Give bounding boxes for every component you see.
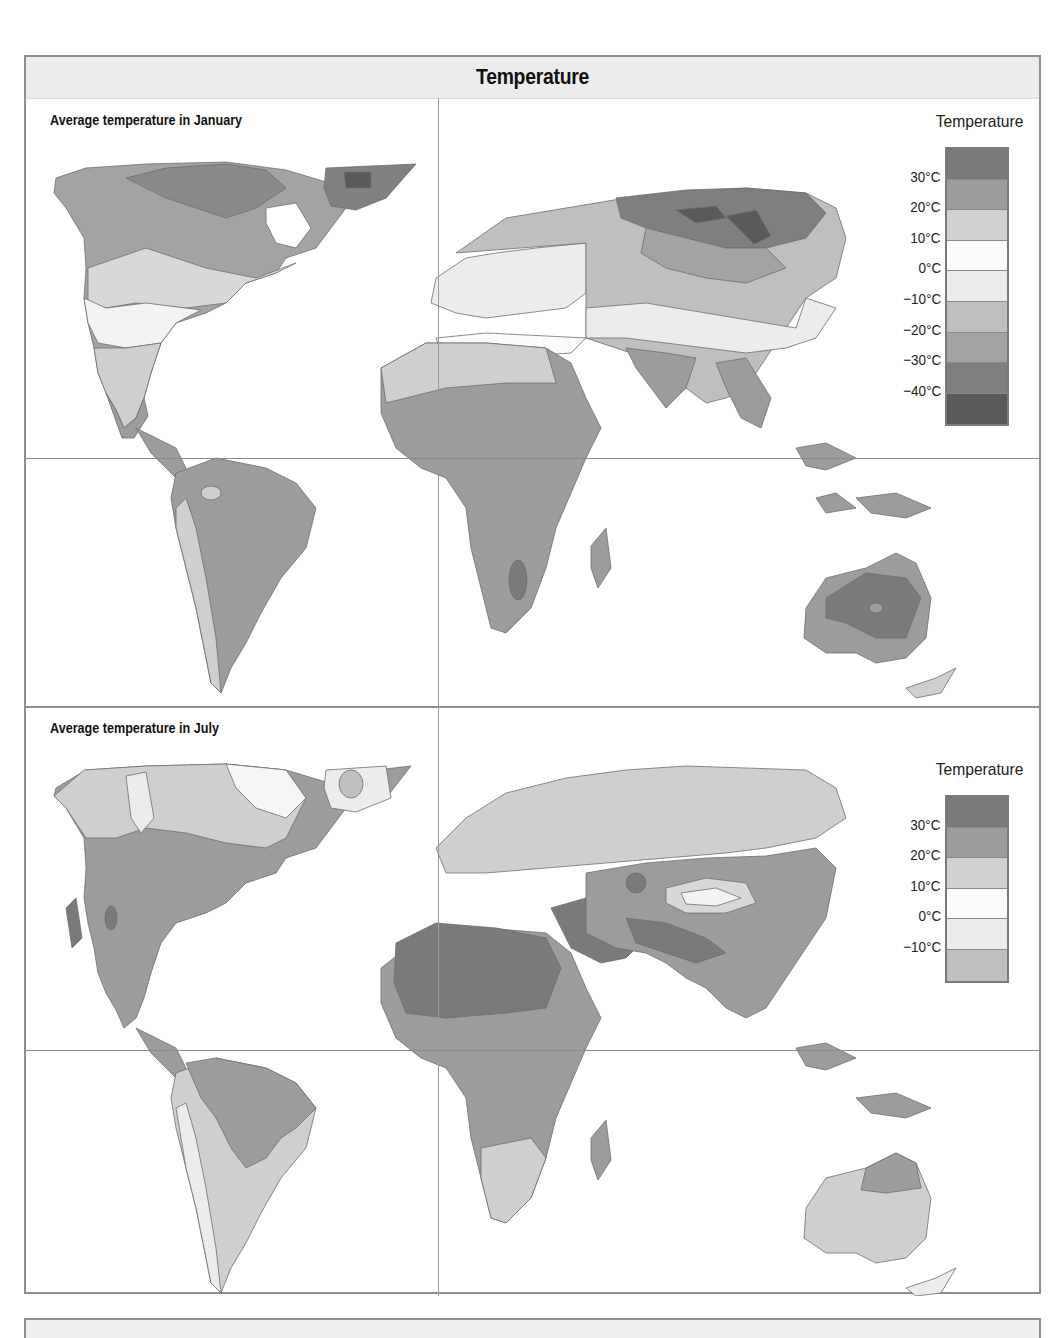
- legend-label: 30°C: [911, 816, 941, 833]
- july-panel: Average temperature in July Temperature …: [26, 706, 1039, 1296]
- swatch-above-30: [947, 149, 1007, 180]
- legend-title: Temperature: [935, 112, 1023, 132]
- legend-label: −20°C: [903, 321, 941, 338]
- january-world-map: [26, 98, 1039, 706]
- legend-label: 10°C: [911, 877, 941, 894]
- legend-label: 20°C: [911, 846, 941, 863]
- july-world-map: [26, 708, 1039, 1296]
- swatch-minus40-minus30: [947, 363, 1007, 394]
- legend-label: 20°C: [911, 198, 941, 215]
- january-map-title: Average temperature in January: [50, 112, 242, 128]
- legend-title: Temperature: [935, 760, 1023, 780]
- july-map-title: Average temperature in July: [50, 720, 219, 736]
- prime-meridian-line: [438, 708, 439, 1296]
- legend-label: 0°C: [918, 259, 941, 276]
- swatch-minus10-0: [947, 919, 1007, 950]
- swatch-0-10: [947, 889, 1007, 920]
- map-frame: Temperature: [24, 55, 1041, 1294]
- legend-label: 10°C: [911, 229, 941, 246]
- swatch-minus10-0: [947, 271, 1007, 302]
- january-legend: Temperature 30°C 20°C 10°C 0°C −10°C −20…: [905, 112, 1025, 442]
- swatch-20-30: [947, 828, 1007, 859]
- legend-label: 30°C: [911, 168, 941, 185]
- legend-label: −10°C: [903, 938, 941, 955]
- july-legend: Temperature 30°C 20°C 10°C 0°C −10°C: [905, 760, 1025, 1000]
- swatch-above-30: [947, 797, 1007, 828]
- legend-swatches: [945, 147, 1009, 426]
- swatch-minus20-minus10: [947, 302, 1007, 333]
- equator-line: [26, 458, 1039, 459]
- january-panel: Average temperature in January Temperatu…: [26, 98, 1039, 706]
- legend-label: −10°C: [903, 290, 941, 307]
- legend-label: −30°C: [903, 351, 941, 368]
- legend-label: −40°C: [903, 382, 941, 399]
- swatch-minus30-minus20: [947, 333, 1007, 364]
- swatch-0-10: [947, 241, 1007, 272]
- legend-label: 0°C: [918, 907, 941, 924]
- equator-line: [26, 1050, 1039, 1051]
- header-band: Temperature: [26, 57, 1039, 99]
- page-title: Temperature: [87, 64, 978, 90]
- next-section-box: [24, 1318, 1041, 1338]
- swatch-20-30: [947, 180, 1007, 211]
- swatch-10-20: [947, 210, 1007, 241]
- prime-meridian-line: [438, 98, 439, 706]
- swatch-10-20: [947, 858, 1007, 889]
- legend-swatches: [945, 795, 1009, 983]
- swatch-below-minus40: [947, 394, 1007, 425]
- swatch-below-minus10: [947, 950, 1007, 981]
